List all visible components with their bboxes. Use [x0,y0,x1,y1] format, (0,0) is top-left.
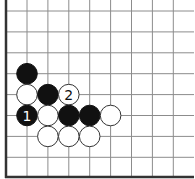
black-stone-icon [38,84,59,105]
white-stone-icon [79,126,100,147]
white-stone [100,105,121,126]
black-stone-move-1: 1 [17,105,38,126]
white-stone-icon [38,126,59,147]
white-stone [79,126,100,147]
white-stone-icon [38,105,59,126]
black-stone-icon [79,105,100,126]
white-stone-icon [17,84,38,105]
black-stone [38,84,59,105]
black-stone [17,63,38,84]
white-stone [38,105,59,126]
white-stone-icon [59,126,80,147]
go-board-diagram: 21 [0,0,195,179]
white-stone [38,126,59,147]
move-number-label: 2 [64,87,73,103]
black-stone [79,105,100,126]
white-stone-icon [100,105,121,126]
black-stone-icon [17,63,38,84]
white-stone [17,84,38,105]
black-stone [59,105,80,126]
move-number-label: 1 [23,108,32,124]
white-stone [59,126,80,147]
black-stone-icon [59,105,80,126]
white-stone-move-2: 2 [59,84,80,105]
